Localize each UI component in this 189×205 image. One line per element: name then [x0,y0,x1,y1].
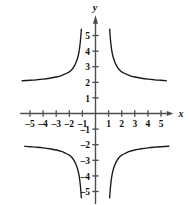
y-tick-label: 4 [85,47,90,57]
graph-canvas: –5–4–3–2–112345 54321–1–2–3–4–5 xy [0,0,189,205]
axis-name-labels: xy [92,2,184,119]
y-tick-label: –2 [80,140,91,150]
x-tick-label: 2 [119,119,124,129]
curve-lower-left [25,146,82,197]
x-tick-label: –2 [64,119,75,129]
curve-lower-right [110,146,169,197]
y-axis-label: y [92,2,98,13]
curve-upper-right [110,29,167,80]
x-tick-label: 5 [159,119,164,129]
x-tick-label: 1 [106,119,111,129]
x-tick-label: 4 [146,119,151,129]
x-axis-label: x [177,108,183,119]
x-tick-label: –5 [24,119,35,129]
x-tick-labels: –5–4–3–2–112345 [24,119,163,129]
y-tick-label: 3 [85,62,90,72]
x-tick-label: 3 [132,119,137,129]
y-axis-arrowhead [93,15,98,24]
y-tick-label: 2 [85,78,90,88]
x-axis-arrowhead [167,111,174,116]
y-tick-label: –1 [80,125,91,135]
y-tick-label: –3 [80,156,91,166]
coordinate-plane: –5–4–3–2–112345 54321–1–2–3–4–5 xy [0,0,189,205]
x-tick-label: –4 [37,119,48,129]
curve-upper-left [22,29,81,80]
y-tick-label: –4 [80,172,91,182]
x-tick-label: –3 [50,119,61,129]
y-tick-label: 5 [85,31,90,41]
y-tick-label: 1 [85,94,90,104]
